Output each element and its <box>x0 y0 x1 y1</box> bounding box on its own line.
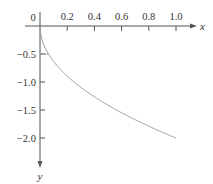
x-tick-label: 0.6 <box>115 11 128 22</box>
x-tick-label: 0.4 <box>88 11 102 22</box>
x-axis-label: x <box>199 20 205 32</box>
ticks <box>40 26 176 138</box>
y-tick-label: −2.0 <box>17 133 36 144</box>
y-axis-label: y <box>37 170 43 182</box>
axes: xy <box>25 12 205 182</box>
y-tick-label: −1.0 <box>17 77 36 88</box>
x-tick-label: 0.8 <box>142 11 155 22</box>
y-tick-label: −1.5 <box>17 105 36 116</box>
y-axis-arrow-icon <box>38 161 43 168</box>
x-axis-arrow-icon <box>190 24 197 29</box>
y-tick-label: −0.5 <box>17 49 36 60</box>
data-curve <box>40 26 176 138</box>
tick-labels: 00.20.40.60.81.0−0.5−1.0−1.5−2.0 <box>17 11 183 144</box>
chart: xy 00.20.40.60.81.0−0.5−1.0−1.5−2.0 <box>0 0 213 184</box>
origin-label: 0 <box>30 12 35 23</box>
x-tick-label: 1.0 <box>169 11 182 22</box>
x-tick-label: 0.2 <box>61 11 74 22</box>
